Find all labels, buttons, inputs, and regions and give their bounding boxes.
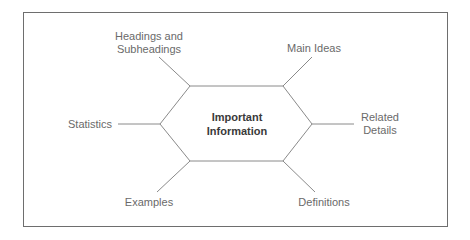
center-label-line2: Information — [207, 124, 268, 138]
center-label: Important Information — [207, 110, 268, 138]
connector-examples — [157, 161, 190, 192]
node-related-line2: Details — [361, 124, 399, 137]
node-statistics: Statistics — [68, 118, 112, 131]
node-related-line1: Related — [361, 111, 399, 124]
node-examples: Examples — [125, 196, 173, 209]
connector-definitions — [283, 161, 315, 192]
node-related-details: Related Details — [361, 111, 399, 137]
connector-main-ideas — [283, 57, 312, 86]
node-headings-line2: Subheadings — [115, 43, 183, 56]
node-main-ideas: Main Ideas — [287, 42, 341, 55]
node-headings-and-subheadings: Headings and Subheadings — [115, 30, 183, 56]
node-headings-line1: Headings and — [115, 30, 183, 43]
node-definitions: Definitions — [298, 196, 349, 209]
center-label-line1: Important — [207, 110, 268, 124]
connector-headings — [159, 57, 190, 86]
